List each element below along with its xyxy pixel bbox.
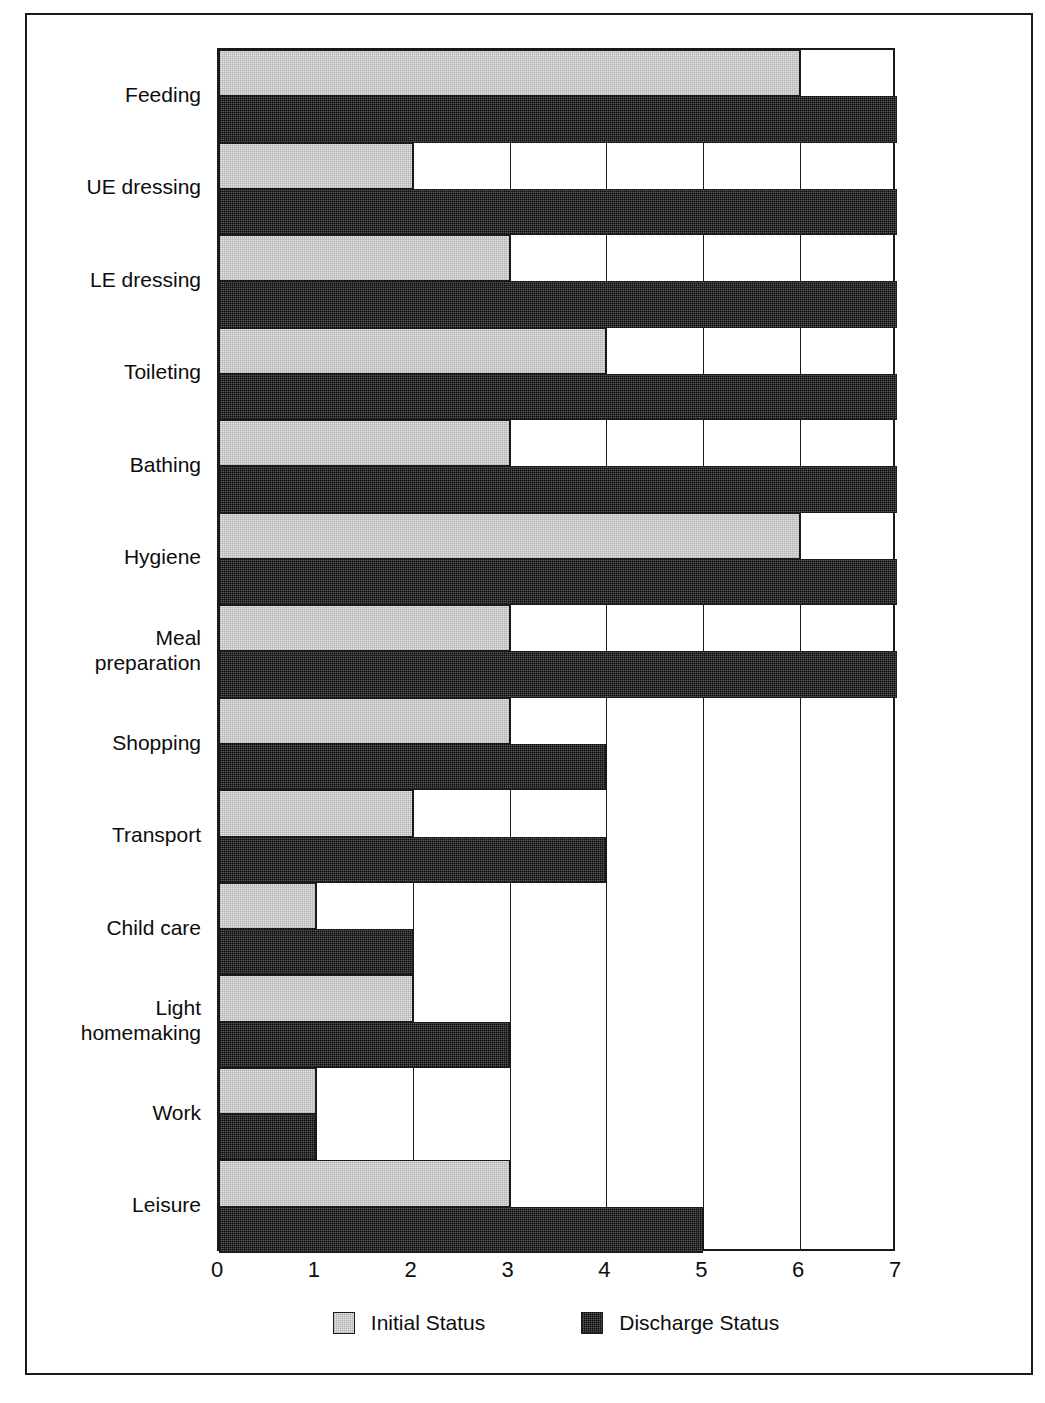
value-tick-label: 1 (308, 1257, 320, 1283)
category-label: Leisure (132, 1192, 201, 1217)
bar-discharge-status[interactable] (219, 837, 606, 883)
bar-row (219, 605, 893, 698)
category-label: LE dressing (90, 267, 201, 292)
category-label: Feeding (125, 82, 201, 107)
value-tick-label: 7 (889, 1257, 901, 1283)
bar-initial-status[interactable] (219, 513, 800, 559)
bar-discharge-status[interactable] (219, 281, 897, 327)
bar-discharge-status[interactable] (219, 744, 606, 790)
category-label: Toileting (124, 359, 201, 384)
bar-initial-status[interactable] (219, 1160, 510, 1206)
bar-initial-status[interactable] (219, 420, 510, 466)
bar-initial-status[interactable] (219, 235, 510, 281)
bar-row (219, 235, 893, 328)
bar-initial-status[interactable] (219, 790, 413, 836)
bar-row (219, 883, 893, 976)
legend-label: Discharge Status (619, 1311, 779, 1335)
legend-item-discharge[interactable]: Discharge Status (581, 1311, 779, 1335)
bar-discharge-status[interactable] (219, 96, 897, 142)
bar-row (219, 975, 893, 1068)
legend-swatch-initial-icon (333, 1312, 355, 1334)
chart-legend: Initial StatusDischarge Status (217, 1303, 895, 1343)
bar-initial-status[interactable] (219, 975, 413, 1021)
bar-initial-status[interactable] (219, 328, 606, 374)
bar-row (219, 143, 893, 236)
value-tick-label: 2 (405, 1257, 417, 1283)
category-label: Transport (112, 822, 201, 847)
category-label: Child care (106, 915, 201, 940)
category-axis-labels: FeedingUE dressingLE dressingToiletingBa… (27, 48, 209, 1251)
bar-discharge-status[interactable] (219, 1114, 316, 1160)
bar-rows (219, 50, 893, 1249)
value-tick-label: 3 (501, 1257, 513, 1283)
bar-discharge-status[interactable] (219, 559, 897, 605)
bar-row (219, 328, 893, 421)
bar-discharge-status[interactable] (219, 374, 897, 420)
bar-discharge-status[interactable] (219, 1207, 703, 1253)
bar-initial-status[interactable] (219, 1068, 316, 1114)
bar-row (219, 790, 893, 883)
category-label: Hygiene (124, 544, 201, 569)
bar-discharge-status[interactable] (219, 466, 897, 512)
bar-row (219, 1068, 893, 1161)
bar-initial-status[interactable] (219, 50, 800, 96)
bar-discharge-status[interactable] (219, 651, 897, 697)
bar-discharge-status[interactable] (219, 1022, 510, 1068)
category-label: Shopping (112, 730, 201, 755)
bar-discharge-status[interactable] (219, 929, 413, 975)
bar-row (219, 50, 893, 143)
category-label: Bathing (130, 452, 201, 477)
plot-area (217, 48, 895, 1251)
bar-initial-status[interactable] (219, 883, 316, 929)
category-label: Light homemaking (81, 995, 201, 1045)
value-tick-label: 5 (695, 1257, 707, 1283)
legend-item-initial[interactable]: Initial Status (333, 1311, 485, 1335)
bar-initial-status[interactable] (219, 143, 413, 189)
bar-initial-status[interactable] (219, 605, 510, 651)
value-tick-label: 4 (598, 1257, 610, 1283)
value-tick-label: 6 (792, 1257, 804, 1283)
bar-row (219, 420, 893, 513)
figure-frame: FeedingUE dressingLE dressingToiletingBa… (25, 13, 1033, 1375)
bar-discharge-status[interactable] (219, 189, 897, 235)
value-tick-label: 0 (211, 1257, 223, 1283)
value-axis-tick-labels: 01234567 (217, 1257, 895, 1291)
bar-row (219, 698, 893, 791)
bar-row (219, 513, 893, 606)
legend-swatch-discharge-icon (581, 1312, 603, 1334)
category-label: UE dressing (87, 174, 201, 199)
bar-row (219, 1160, 893, 1253)
legend-label: Initial Status (371, 1311, 485, 1335)
category-label: Meal preparation (95, 625, 201, 675)
bar-initial-status[interactable] (219, 698, 510, 744)
category-label: Work (152, 1100, 201, 1125)
